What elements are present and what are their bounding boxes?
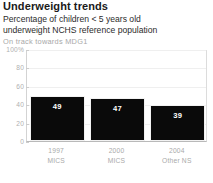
x-axis-label-year: 1997 <box>26 146 86 156</box>
y-axis-tick-label: 60 <box>0 83 24 90</box>
chart-subtitle-line-1: Percentage of children < 5 years old <box>3 14 210 25</box>
chart-subtitle-line-2: underweight NCHS reference population <box>3 25 210 36</box>
chart-header: Underweight trends Percentage of childre… <box>3 0 210 46</box>
x-axis-tick-label: 2004Other NS <box>147 146 207 165</box>
plot-area: 494739 <box>26 50 207 142</box>
y-axis-tick-label: 100% <box>0 46 24 53</box>
y-axis-tick-label: 80 <box>0 64 24 71</box>
bar[interactable]: 39 <box>150 105 205 141</box>
bar[interactable]: 49 <box>30 96 85 141</box>
chart-plot-wrapper: 020406080100% 494739 1997MICS2000MICS200… <box>0 47 213 183</box>
y-axis-tick-label: 20 <box>0 120 24 127</box>
x-axis-label-year: 2000 <box>86 146 146 156</box>
chart-subtitle: Percentage of children < 5 years old und… <box>3 14 210 35</box>
y-axis-tick-mark <box>26 142 29 143</box>
x-axis-tick-label: 2000MICS <box>86 146 146 165</box>
x-axis-label-source: Other NS <box>147 156 207 166</box>
x-axis-label-year: 2004 <box>147 146 207 156</box>
bar-value-label: 49 <box>31 103 84 111</box>
status-note: On track towards MDG1 <box>3 37 210 46</box>
gridline <box>27 50 206 51</box>
x-axis-tick-label: 1997MICS <box>26 146 86 165</box>
bar-value-label: 39 <box>151 112 204 120</box>
gridline <box>27 87 206 88</box>
bar-value-label: 47 <box>91 105 144 113</box>
x-axis-label-source: MICS <box>86 156 146 166</box>
y-axis-tick-label: 0 <box>0 138 24 145</box>
underweight-trends-chart-card: Underweight trends Percentage of childre… <box>0 0 213 183</box>
page-title: Underweight trends <box>3 0 210 13</box>
y-axis-tick-mark <box>26 124 29 125</box>
y-axis-tick-mark <box>26 105 29 106</box>
y-axis-tick-mark <box>26 50 29 51</box>
bar[interactable]: 47 <box>90 98 145 141</box>
y-axis: 020406080100% <box>0 47 24 145</box>
y-axis-tick-mark <box>26 68 29 69</box>
x-axis-label-source: MICS <box>26 156 86 166</box>
y-axis-tick-label: 40 <box>0 101 24 108</box>
y-axis-tick-mark <box>26 87 29 88</box>
gridline <box>27 68 206 69</box>
